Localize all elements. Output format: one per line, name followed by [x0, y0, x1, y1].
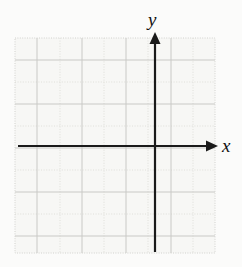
y-axis-label: y [148, 10, 156, 29]
coordinate-grid-figure: x y [0, 0, 242, 267]
grid-canvas [0, 0, 242, 267]
x-axis-label: x [222, 136, 230, 155]
